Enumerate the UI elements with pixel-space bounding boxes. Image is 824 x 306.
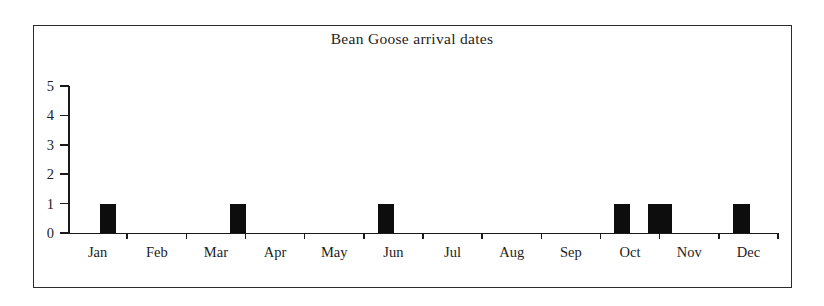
x-axis-tick-label-jun: Jun bbox=[363, 245, 423, 260]
x-axis-tick-label-aug: Aug bbox=[482, 245, 542, 260]
y-axis-tick bbox=[60, 115, 69, 117]
x-axis-tick-label-dec: Dec bbox=[718, 245, 778, 260]
x-axis-tick bbox=[777, 233, 779, 239]
y-axis-tick-label: 1 bbox=[32, 197, 54, 212]
x-axis-tick bbox=[363, 233, 365, 239]
y-axis-tick-label: 4 bbox=[32, 108, 54, 123]
x-axis-tick bbox=[481, 233, 483, 239]
x-axis-tick-label-nov: Nov bbox=[659, 245, 719, 260]
bar-dec bbox=[733, 204, 750, 233]
y-axis-tick bbox=[60, 173, 69, 175]
y-axis-tick bbox=[60, 203, 69, 205]
x-axis-tick-label-mar: Mar bbox=[186, 245, 246, 260]
y-axis-tick-label: 2 bbox=[32, 167, 54, 182]
bar-sep-oct bbox=[614, 204, 630, 233]
x-axis-tick bbox=[718, 233, 720, 239]
x-axis-tick bbox=[659, 233, 661, 239]
chart-title: Bean Goose arrival dates bbox=[0, 30, 824, 48]
x-axis-tick-label-sep: Sep bbox=[541, 245, 601, 260]
x-axis-tick-label-oct: Oct bbox=[600, 245, 660, 260]
x-axis-tick-label-apr: Apr bbox=[245, 245, 305, 260]
x-axis-tick-label-feb: Feb bbox=[127, 245, 187, 260]
x-axis-tick-label-jul: Jul bbox=[423, 245, 483, 260]
y-axis-tick-label: 3 bbox=[32, 138, 54, 153]
x-axis-tick bbox=[245, 233, 247, 239]
bar-jun bbox=[378, 204, 394, 233]
y-axis-tick-label: 5 bbox=[32, 79, 54, 94]
x-axis-tick bbox=[126, 233, 128, 239]
x-axis-tick bbox=[541, 233, 543, 239]
bar-chart-figure: Bean Goose arrival dates 543210 JanFebMa… bbox=[0, 0, 824, 306]
bar-jan bbox=[100, 204, 116, 233]
x-axis-tick bbox=[600, 233, 602, 239]
y-axis-tick bbox=[60, 232, 69, 234]
x-axis-tick bbox=[304, 233, 306, 239]
x-axis-tick-label-jan: Jan bbox=[68, 245, 128, 260]
bar-mar bbox=[230, 204, 246, 233]
x-axis-tick-label-may: May bbox=[304, 245, 364, 260]
y-axis-tick bbox=[60, 144, 69, 146]
x-axis-tick bbox=[422, 233, 424, 239]
y-axis-tick-label: 0 bbox=[32, 226, 54, 241]
x-axis-tick bbox=[186, 233, 188, 239]
y-axis-tick bbox=[60, 85, 69, 87]
bar-oct-nov bbox=[648, 204, 672, 233]
y-axis-line bbox=[68, 86, 70, 234]
